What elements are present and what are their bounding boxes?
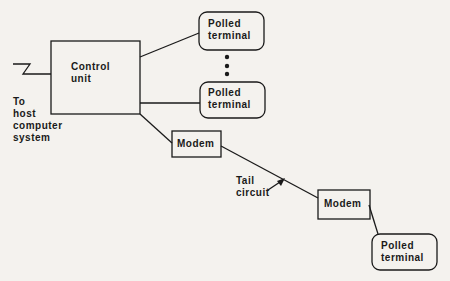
host-label-line4: system [13, 132, 63, 144]
terminal-3-line1: Polled [381, 240, 424, 252]
modem-label-2: Modem [324, 198, 362, 210]
tail-circuit-label: Tail circuit [236, 175, 270, 199]
control-unit-line1: Control [71, 61, 110, 73]
modem-2-text: Modem [324, 198, 362, 209]
control-unit-line2: unit [71, 73, 110, 85]
host-label: To host computer system [13, 96, 63, 144]
tail-circuit-line1: Tail [236, 175, 270, 187]
terminal-label-2: Polled terminal [208, 87, 251, 111]
terminal-2-line2: terminal [208, 99, 251, 111]
terminal-2-line1: Polled [208, 87, 251, 99]
terminal-1-line1: Polled [208, 18, 251, 30]
terminal-3-line2: terminal [381, 252, 424, 264]
host-label-line1: To [13, 96, 63, 108]
ellipsis-dots [225, 55, 229, 76]
control-unit-label: Control unit [71, 61, 110, 85]
arrowhead-icon [277, 178, 285, 186]
link-to-terminal-1 [140, 33, 199, 57]
terminal-1-line2: terminal [208, 30, 251, 42]
host-link-line [13, 64, 51, 74]
host-label-line3: computer [13, 120, 63, 132]
link-to-modem-1 [140, 114, 172, 143]
modem-1-text: Modem [177, 138, 215, 149]
network-diagram: Control unit To host computer system Pol… [0, 0, 450, 281]
tail-circuit-line2: circuit [236, 187, 270, 199]
terminal-label-3: Polled terminal [381, 240, 424, 264]
diagram-lines [0, 0, 450, 281]
modem-label-1: Modem [177, 138, 215, 150]
terminal-label-1: Polled terminal [208, 18, 251, 42]
host-label-line2: host [13, 108, 63, 120]
